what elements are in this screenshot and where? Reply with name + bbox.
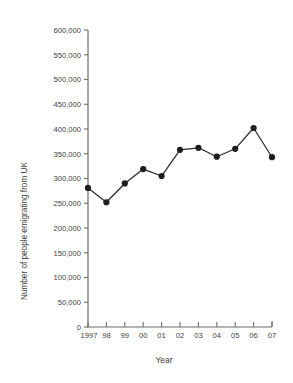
y-tick-label: 50,000 (58, 298, 81, 307)
y-tick-label: 400,000 (54, 125, 81, 134)
data-point-marker (195, 145, 201, 151)
y-tick-label: 450,000 (54, 100, 81, 109)
y-tick-label: 200,000 (54, 224, 81, 233)
y-tick-label: 300,000 (54, 174, 81, 183)
data-point-marker (251, 125, 257, 131)
data-point-marker (85, 185, 91, 191)
y-axis-title: Number of people emigrating from UK (20, 162, 29, 300)
x-tick-label: 04 (213, 331, 221, 340)
x-tick-label: 00 (139, 331, 147, 340)
x-tick-label: 1997 (81, 331, 98, 340)
y-tick-label: 250,000 (54, 199, 81, 208)
x-tick-label: 02 (176, 331, 184, 340)
data-point-marker (232, 146, 238, 152)
y-tick-label: 100,000 (54, 273, 81, 282)
x-tick-label: 01 (157, 331, 165, 340)
y-tick-label: 150,000 (54, 249, 81, 258)
data-point-marker (159, 173, 165, 179)
x-tick-label: 99 (121, 331, 129, 340)
y-tick-label: 500,000 (54, 75, 81, 84)
data-point-marker (269, 154, 275, 160)
data-point-marker (122, 180, 128, 186)
x-axis-title: Year (156, 355, 173, 365)
data-point-marker (177, 147, 183, 153)
x-tick-label: 98 (102, 331, 110, 340)
y-tick-label: 600,000 (54, 26, 81, 35)
x-tick-label: 03 (194, 331, 202, 340)
y-tick-label: 550,000 (54, 51, 81, 60)
data-point-marker (214, 154, 220, 160)
y-tick-label: 350,000 (54, 150, 81, 159)
chart-canvas: Number of people emigrating from UK 050,… (0, 0, 293, 383)
x-tick-label: 07 (268, 331, 276, 340)
data-point-marker (103, 199, 109, 205)
data-point-marker (140, 166, 146, 172)
emigration-line-chart: Number of people emigrating from UK 050,… (0, 0, 293, 383)
chart-background (0, 0, 293, 383)
x-tick-label: 06 (249, 331, 257, 340)
x-tick-label: 05 (231, 331, 239, 340)
